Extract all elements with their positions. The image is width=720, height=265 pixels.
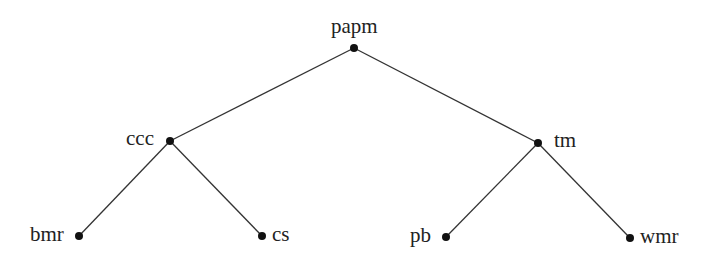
label-pb: pb — [410, 225, 431, 246]
label-tm: tm — [554, 130, 576, 151]
node-pb — [442, 233, 450, 241]
label-ccc: ccc — [126, 128, 154, 149]
node-ccc — [166, 137, 174, 145]
edge-ccc-cs — [170, 141, 262, 236]
edge-papm-tm — [354, 48, 538, 143]
edge-papm-ccc — [170, 48, 354, 141]
edge-ccc-bmr — [79, 141, 170, 236]
edge-tm-pb — [446, 143, 538, 237]
node-papm — [350, 44, 358, 52]
node-tm — [534, 139, 542, 147]
node-cs — [258, 232, 266, 240]
label-wmr: wmr — [640, 226, 679, 247]
node-bmr — [75, 232, 83, 240]
label-papm: papm — [331, 16, 378, 37]
nodes — [75, 44, 634, 242]
tree-diagram — [0, 0, 720, 265]
edges — [79, 48, 630, 238]
edge-tm-wmr — [538, 143, 630, 238]
label-bmr: bmr — [30, 224, 64, 245]
node-wmr — [626, 234, 634, 242]
label-cs: cs — [272, 224, 290, 245]
